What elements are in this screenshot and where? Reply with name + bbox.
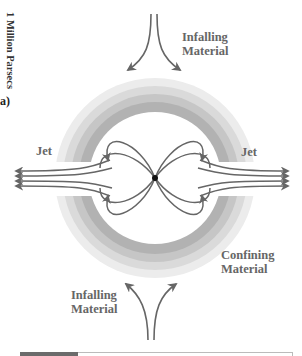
- infalling-arrows-top: [128, 14, 180, 70]
- jet-diagram: [0, 0, 302, 356]
- infalling-arrows-bottom: [126, 284, 176, 340]
- label-infalling-top: Infalling Material: [182, 30, 229, 58]
- label-infalling-bottom: Infalling Material: [71, 288, 118, 316]
- label-jet-left: Jet: [36, 144, 52, 158]
- central-black-hole: [152, 175, 158, 181]
- torus-gap-edges: [60, 162, 65, 196]
- label-jet-right: Jet: [241, 145, 257, 159]
- scale-bar-block: [20, 352, 78, 356]
- label-confining-material: Confining Material: [221, 248, 275, 276]
- jet-left: [16, 160, 112, 196]
- scale-bar-line: [78, 352, 292, 353]
- scale-bar-end: [292, 352, 293, 356]
- jet-right: [198, 160, 288, 196]
